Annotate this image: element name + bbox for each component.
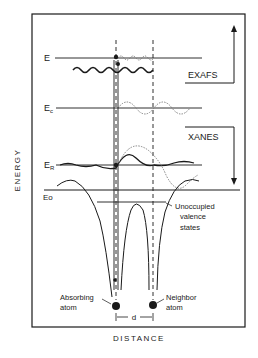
distance-d-label: d [132,313,136,322]
exafs-arrow-head [231,25,237,32]
neighbor-atom-label-2: atom [166,303,183,312]
y-axis-label: ENERGY [13,149,22,192]
level-E-label: E [44,53,50,63]
potential-well-inner-right [157,180,199,291]
x-axis-label: DISTANCE [113,334,165,343]
excitation-dot-top [114,55,118,59]
level-E0-label: Eo [43,193,53,202]
exafs-label: EXAFS [188,70,218,80]
neighbor-atom [149,301,157,309]
absorbing-atom-label-2: atom [60,303,77,312]
neighbor-leader [157,299,164,303]
neighbor-atom-label-1: Neighbor [166,293,197,302]
plot-frame [32,14,245,327]
unoccupied-label-3: states [180,223,200,232]
resonance-wave-solid [60,155,194,169]
xanes-label: XANES [188,132,219,142]
unoccupied-label-2: valence [180,212,206,221]
absorbing-atom [112,302,120,310]
absorbing-atom-label-1: Absorbing [60,293,94,302]
xas-energy-diagram: ENERGY DISTANCE E Ec ER EXAFS XANES Eo U… [0,0,258,358]
absorbing-leader [102,299,111,304]
level-Ec-label: Ec [44,103,53,114]
photoelectron-wave [73,68,153,73]
resonance-dot [114,163,118,167]
xanes-arrow-head [231,178,237,185]
potential-well-left [57,180,112,297]
potential-well-inner-left [121,204,149,290]
resonance-wave-dotted [118,146,198,188]
core-level-dot [113,278,117,282]
unoccupied-label-1: Unoccupied [175,202,215,211]
level-ER-label: ER [44,160,55,171]
